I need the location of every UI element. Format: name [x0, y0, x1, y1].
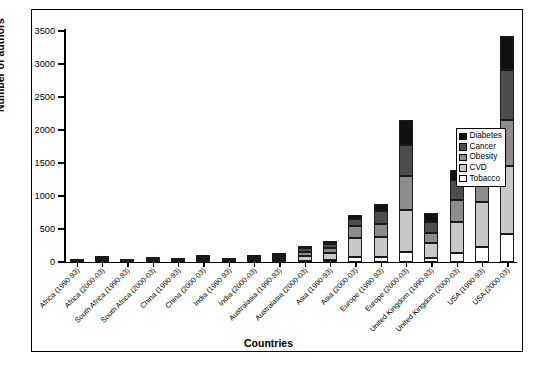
bar-segment — [272, 259, 286, 262]
bar-segment — [374, 237, 388, 257]
bar-segment — [424, 213, 438, 222]
bar-segment — [374, 211, 388, 224]
legend-item: Tobacco — [459, 173, 502, 184]
bar-segment — [399, 176, 413, 210]
bar-segment — [500, 70, 514, 120]
x-tick — [229, 262, 230, 267]
x-tick — [330, 262, 331, 267]
bar-segment — [247, 256, 261, 258]
bar-segment — [399, 145, 413, 176]
x-axis-title: Countries — [0, 337, 537, 349]
bar-stack — [272, 253, 286, 262]
y-tick-label: 2500 — [35, 92, 55, 102]
bar-segment — [475, 202, 489, 247]
bar-segment — [95, 256, 109, 258]
bar-segment — [500, 36, 514, 70]
bar-segment — [298, 248, 312, 252]
legend-label: Tobacco — [470, 175, 501, 183]
legend-swatch-icon — [459, 133, 467, 141]
bar-segment — [120, 259, 134, 261]
bar-segment — [424, 233, 438, 243]
bar-segment — [272, 255, 286, 257]
x-tick — [482, 262, 483, 267]
x-tick — [153, 262, 154, 267]
y-tick-label: 500 — [40, 224, 55, 234]
bar-stack — [399, 120, 413, 262]
x-tick — [507, 262, 508, 267]
bar-segment — [146, 257, 160, 259]
plot-area — [64, 31, 520, 262]
x-tick — [431, 262, 432, 267]
bar-segment — [348, 215, 362, 220]
y-axis-ticks: 0500100015002000250030003500 — [0, 0, 64, 271]
legend-item: Cancer — [459, 142, 502, 153]
bar-segment — [272, 253, 286, 255]
x-tick — [254, 262, 255, 267]
y-tick-label: 1000 — [35, 191, 55, 201]
chart-legend: DiabetesCancerObesityCVDTobacco — [456, 128, 506, 187]
bar-segment — [348, 238, 362, 257]
x-tick — [279, 262, 280, 267]
bar-segment — [70, 259, 84, 261]
y-tick-label: 3500 — [35, 26, 55, 36]
bar-stack — [323, 241, 337, 262]
x-tick — [203, 262, 204, 267]
bar-stack — [374, 204, 388, 262]
bar-segment — [424, 243, 438, 258]
bar-segment — [374, 204, 388, 211]
x-tick — [127, 262, 128, 267]
y-tick-label: 2000 — [35, 125, 55, 135]
bar-segment — [298, 256, 312, 261]
bar-segment — [298, 252, 312, 256]
bar-segment — [399, 252, 413, 262]
bar-stack — [196, 255, 210, 262]
bar-segment — [298, 246, 312, 249]
legend-swatch-icon — [459, 143, 467, 151]
bar-segment — [222, 258, 236, 260]
bar-segment — [424, 222, 438, 233]
legend-label: Obesity — [470, 153, 498, 161]
bar-segment — [399, 120, 413, 144]
x-tick — [178, 262, 179, 267]
bar-segment — [475, 247, 489, 262]
bar-segment — [247, 255, 261, 257]
bar-segment — [450, 253, 464, 262]
bar-segment — [323, 244, 337, 249]
legend-swatch-icon — [459, 175, 467, 183]
x-tick — [355, 262, 356, 267]
x-tick — [406, 262, 407, 267]
bar-segment — [323, 248, 337, 253]
bar-segment — [374, 224, 388, 237]
bar-stack — [298, 246, 312, 263]
legend-item: Obesity — [459, 152, 502, 163]
bar-segment — [348, 219, 362, 226]
y-tick-label: 0 — [50, 257, 55, 267]
y-tick-label: 3000 — [35, 59, 55, 69]
legend-label: Diabetes — [470, 132, 502, 140]
bar-segment — [348, 226, 362, 238]
bar-stack — [247, 255, 261, 262]
bar-segment — [196, 255, 210, 257]
bar-segment — [399, 210, 413, 252]
bar-segment — [323, 253, 337, 260]
x-tick — [305, 262, 306, 267]
x-tick — [77, 262, 78, 267]
legend-label: Cancer — [470, 143, 496, 151]
bar-segment — [500, 234, 514, 262]
bar-segment — [171, 258, 185, 260]
x-tick — [102, 262, 103, 267]
figure-caption — [8, 356, 529, 369]
legend-swatch-icon — [459, 154, 467, 162]
x-tick — [457, 262, 458, 267]
legend-label: CVD — [470, 164, 487, 172]
bar-segment — [450, 222, 464, 254]
x-tick — [381, 262, 382, 267]
bar-stack — [348, 214, 362, 262]
bar-segment — [323, 241, 337, 244]
legend-item: Diabetes — [459, 131, 502, 142]
legend-item: CVD — [459, 163, 502, 174]
legend-swatch-icon — [459, 164, 467, 172]
bar-segment — [450, 200, 464, 222]
y-tick-label: 1500 — [35, 158, 55, 168]
bar-stack — [424, 213, 438, 263]
